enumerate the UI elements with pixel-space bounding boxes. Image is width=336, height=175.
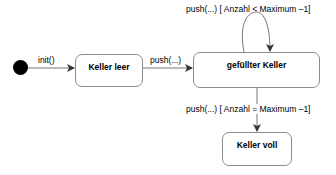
- state-keller-leer: Keller leer: [75, 54, 143, 87]
- state-gefuellter-keller: gefüllter Keller: [193, 52, 320, 88]
- state-label: Keller voll: [223, 133, 291, 150]
- transition-label-init: init(): [38, 55, 55, 65]
- initial-state-node: [13, 60, 28, 75]
- transition-label-self-loop: push(...) [ Anzahl < Maximum –1]: [186, 4, 310, 14]
- state-keller-voll: Keller voll: [222, 132, 292, 166]
- state-label: gefüllter Keller: [194, 53, 319, 70]
- transition-label-push: push(...): [150, 55, 181, 65]
- transition-label-to-full: push(...) [ Anzahl = Maximum –1]: [186, 104, 310, 114]
- state-label: Keller leer: [76, 55, 142, 72]
